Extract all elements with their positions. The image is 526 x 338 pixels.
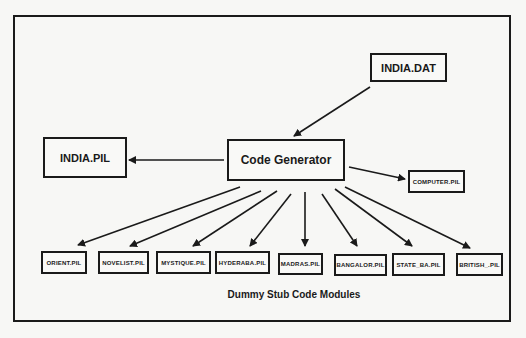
node-label: HYDERABA.PIL — [219, 260, 266, 266]
stub-module-mystique: MYSTIQUE.PIL — [156, 251, 211, 274]
arrow-generator-to-computer-pil — [349, 167, 405, 179]
stub-module-british: BRITISH_.PIL — [456, 253, 503, 276]
diagram-canvas: INDIA.DAT INDIA.PIL Code Generator COMPU… — [0, 0, 526, 338]
stub-module-bangalor: BANGALOR.PIL — [334, 254, 387, 276]
node-label: COMPUTER.PIL — [413, 179, 461, 185]
stub-module-novelist: NOVELIST.PIL — [98, 251, 149, 274]
node-label: BRITISH_.PIL — [459, 262, 500, 268]
node-india-pil: INDIA.PIL — [43, 137, 127, 178]
stub-module-hyderaba: HYDERABA.PIL — [215, 251, 270, 274]
stub-module-madras: MADRAS.PIL — [278, 253, 323, 275]
node-code-generator: Code Generator — [227, 139, 345, 181]
node-label: BANGALOR.PIL — [336, 262, 384, 268]
arrow-to-hyderaba — [250, 194, 291, 246]
arrow-to-british — [345, 187, 470, 248]
diagram-caption: Dummy Stub Code Modules — [0, 289, 526, 300]
stub-module-state-ba: STATE_BA.PIL — [392, 253, 445, 276]
node-label: ORIENT.PIL — [46, 260, 81, 266]
stub-module-orient: ORIENT.PIL — [41, 251, 87, 274]
node-label: INDIA.PIL — [60, 152, 110, 164]
arrow-to-orient — [78, 187, 240, 245]
node-label: STATE_BA.PIL — [396, 262, 440, 268]
node-label: NOVELIST.PIL — [102, 260, 145, 266]
node-computer-pil: COMPUTER.PIL — [408, 170, 465, 193]
node-label: MYSTIQUE.PIL — [161, 260, 206, 266]
arrow-to-state-ba — [335, 189, 412, 246]
arrow-dat-to-generator — [294, 87, 370, 136]
node-label: MADRAS.PIL — [281, 261, 320, 267]
node-label: Code Generator — [241, 153, 332, 167]
node-label: INDIA.DAT — [381, 62, 436, 74]
node-india-dat: INDIA.DAT — [370, 53, 447, 82]
